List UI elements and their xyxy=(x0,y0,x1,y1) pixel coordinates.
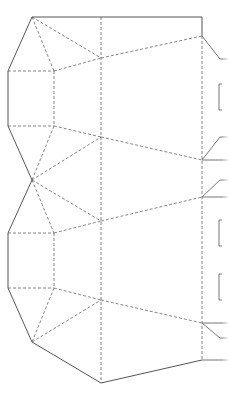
fold-line xyxy=(54,221,101,233)
fold-line xyxy=(101,197,202,221)
fold-line xyxy=(32,288,54,342)
cut-outline xyxy=(8,17,202,383)
papercraft-template xyxy=(0,0,229,393)
fold-line xyxy=(101,137,202,160)
fold-line xyxy=(32,300,101,342)
glue-tab xyxy=(219,84,222,110)
fold-line xyxy=(32,180,101,221)
fold-lines xyxy=(8,17,202,383)
fold-line xyxy=(101,300,202,323)
fold-line xyxy=(54,58,101,71)
right-edge-fade xyxy=(222,0,229,393)
fold-line xyxy=(32,180,54,233)
fold-line xyxy=(32,17,101,58)
glue-tab xyxy=(219,220,222,246)
fold-line xyxy=(54,288,101,300)
fold-line xyxy=(32,17,54,71)
fold-line xyxy=(32,137,101,180)
fold-line xyxy=(32,126,54,180)
fold-line xyxy=(101,36,202,58)
fold-line xyxy=(54,126,101,137)
glue-tab xyxy=(219,274,222,300)
